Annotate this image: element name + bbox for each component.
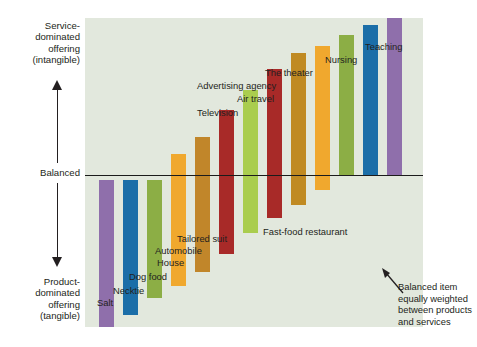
bar-fast-food-restaurant — [243, 90, 258, 233]
axis-top-label-line4: (intangible) — [33, 54, 80, 65]
axis-bottom-label-line4: (tangible) — [40, 310, 80, 321]
bar-label-automobile: Automobile — [155, 246, 202, 257]
bar-label-fast-food-restaurant: Fast-food restaurant — [263, 227, 347, 238]
axis-bottom-label: Product- dominated offering (tangible) — [0, 276, 80, 322]
axis-bottom-label-line2: dominated — [35, 287, 80, 298]
bar-label-the-theater: The theater — [265, 68, 313, 79]
axis-bottom-label-line1: Product- — [44, 276, 80, 287]
down-arrow-icon — [52, 257, 62, 267]
up-arrow-shaft — [57, 89, 58, 163]
balanced-baseline — [85, 175, 423, 176]
bar-label-tailored-suit: Tailored suit — [177, 234, 227, 245]
bar-label-nursing: Nursing — [325, 55, 357, 66]
annotation-line3: between products — [398, 304, 472, 315]
axis-bottom-label-line3: offering — [48, 299, 80, 310]
bar-advertising-agency — [315, 46, 330, 190]
axis-top-label: Service- dominated offering (intangible) — [0, 20, 80, 66]
balanced-annotation: Balanced item equally weighted between p… — [398, 281, 477, 327]
bar-label-salt: Salt — [97, 298, 113, 309]
bar-label-air-travel: Air travel — [237, 94, 274, 105]
bar-label-dog-food: Dog food — [129, 272, 167, 283]
annotation-line4: and services — [398, 316, 451, 327]
bar-label-necktie: Necktie — [113, 286, 144, 297]
axis-top-label-line3: offering — [48, 43, 80, 54]
axis-top-label-line2: dominated — [35, 31, 80, 42]
vertical-axis: Service- dominated offering (intangible)… — [0, 0, 84, 347]
bar-label-house: House — [157, 258, 184, 269]
down-arrow-shaft — [57, 183, 58, 257]
bar-label-television: Television — [197, 108, 238, 119]
bar-label-teaching: Teaching — [365, 42, 403, 53]
plot-area: SaltNecktieDog foodHouseAutomobileTailor… — [85, 18, 423, 327]
annotation-line1: Balanced item — [398, 281, 457, 292]
axis-top-label-line1: Service- — [45, 20, 80, 31]
axis-mid-label: Balanced — [0, 167, 80, 178]
bar-label-advertising-agency: Advertising agency — [197, 81, 276, 92]
annotation-line2: equally weighted — [398, 293, 468, 304]
